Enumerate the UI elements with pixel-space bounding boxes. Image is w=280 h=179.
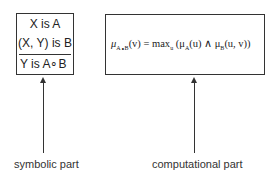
symbolic-box: X is A (X, Y) is B Y is A∘B [16,13,74,75]
formula-text: (u) ∧ μ [189,38,220,49]
inference-line [19,54,71,55]
composition-formula: μA∘B(v) = maxu (μA(u) ∧ μB(u, v)) [111,37,251,51]
premise-2: (X, Y) is B [17,36,73,50]
formula-text: (v) = max [129,38,171,49]
subscript: A∘B [116,45,128,51]
arrow-up-icon [194,82,195,153]
computational-box: μA∘B(v) = maxu (μA(u) ∧ μB(u, v)) [105,14,265,75]
formula-text: (u, v)) [224,38,250,49]
arrow-up-icon [43,82,44,153]
computational-label: computational part [152,158,243,170]
premise-1: X is A [17,17,73,31]
symbolic-label: symbolic part [14,158,79,170]
formula-text: (μ [173,38,185,49]
conclusion: Y is A∘B [17,57,73,71]
